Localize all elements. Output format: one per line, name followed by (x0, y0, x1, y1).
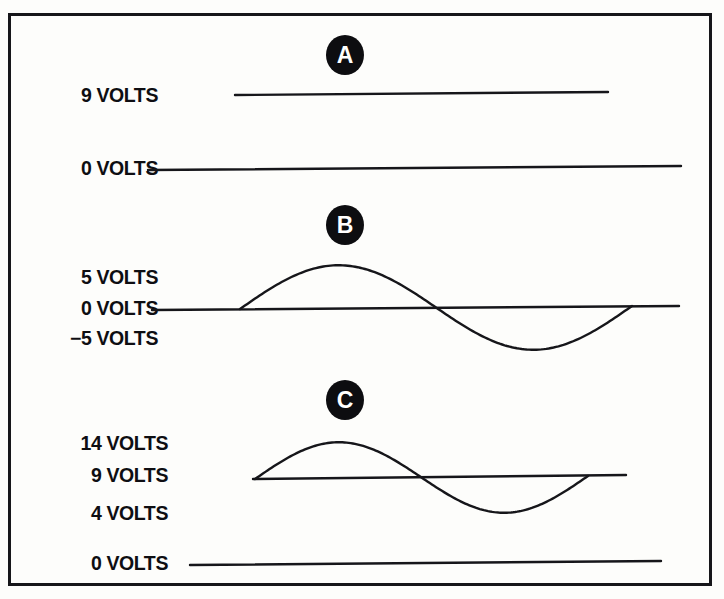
panel-b-label-5v: 5 VOLTS (58, 266, 158, 289)
panel-marker-a: A (326, 35, 364, 75)
panel-marker-c: C (326, 380, 364, 420)
panel-c-label-14v: 14 VOLTS (58, 432, 168, 455)
panel-c-label-0v: 0 VOLTS (58, 552, 168, 575)
panel-b-label-0v: 0 VOLTS (58, 297, 158, 320)
voltage-waveform-figure: A 9 VOLTS 0 VOLTS B 5 VOLTS 0 VOLTS −5 V… (0, 0, 724, 599)
panel-c-label-9v: 9 VOLTS (58, 464, 168, 487)
panel-b-label-neg5v: −5 VOLTS (48, 327, 158, 350)
panel-c-label-4v: 4 VOLTS (58, 502, 168, 525)
panel-a-label-9v: 9 VOLTS (58, 84, 158, 107)
panel-a-label-0v: 0 VOLTS (58, 157, 158, 180)
panel-marker-b: B (326, 205, 364, 245)
